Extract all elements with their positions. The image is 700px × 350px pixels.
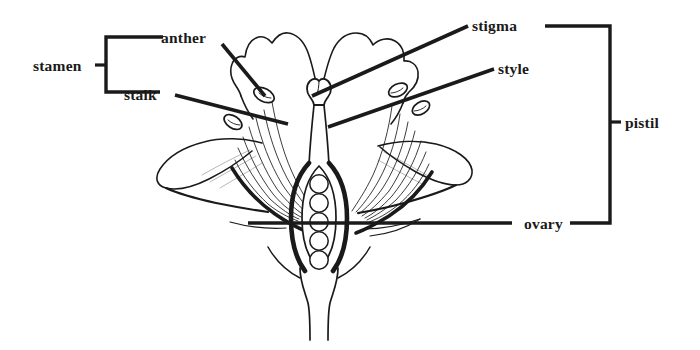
label-style: style bbox=[498, 60, 529, 77]
label-ovary: ovary bbox=[524, 215, 563, 232]
label-stalk: stalk bbox=[124, 86, 157, 103]
label-anther: anther bbox=[161, 29, 206, 46]
label-pistil: pistil bbox=[625, 114, 659, 131]
diagram-canvas: stamen anther stalk stigma style ovary p… bbox=[0, 0, 700, 350]
ovule bbox=[310, 194, 328, 212]
label-stigma: stigma bbox=[472, 17, 517, 34]
label-stamen: stamen bbox=[33, 57, 82, 74]
ovule bbox=[310, 175, 328, 193]
flower-anatomy-diagram: stamen anther stalk stigma style ovary p… bbox=[0, 0, 700, 350]
ovule bbox=[310, 232, 328, 250]
ovule bbox=[310, 251, 328, 269]
